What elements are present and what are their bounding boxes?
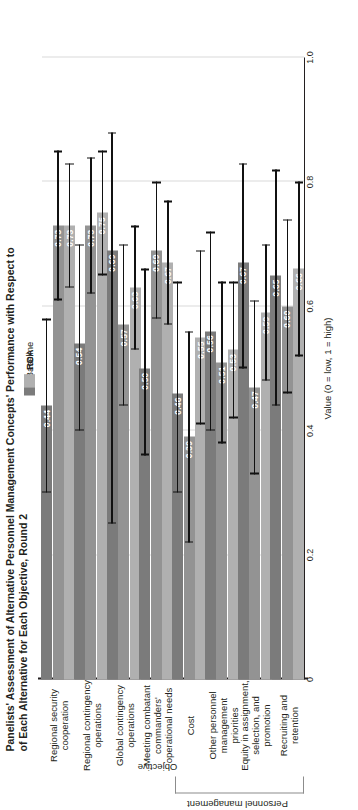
error-bar (265, 244, 267, 381)
error-bar-cap (283, 219, 291, 221)
bar-group: 0.690.570.63 (108, 57, 141, 679)
bar-group: 0.440.730.73 (42, 57, 75, 679)
category-label: Other personnel management priorities (210, 679, 237, 771)
error-bar-cap (65, 163, 73, 165)
error-bar-cap (65, 286, 73, 288)
error-bar-cap (131, 348, 139, 350)
error-bar (46, 318, 48, 492)
error-bar (156, 181, 158, 318)
error-bar-cap (196, 422, 204, 424)
error-bar-cap (218, 441, 226, 443)
value-axis-tick: 0.8 (305, 175, 315, 188)
category-label: Regional security cooperation (46, 679, 73, 771)
error-bar-cap (206, 231, 214, 233)
error-bar-cap (218, 281, 226, 283)
error-bar-cap (272, 404, 280, 406)
error-bar (275, 169, 277, 405)
error-bar-cap (141, 269, 149, 271)
error-bar (123, 244, 125, 406)
error-bar (254, 300, 256, 474)
error-bar-cap (42, 491, 50, 493)
error-bar (167, 200, 169, 324)
error-bar (102, 150, 104, 274)
error-bar-cap (239, 163, 247, 165)
error-bar-cap (54, 150, 62, 152)
error-bar (200, 250, 202, 424)
bar-group: 0.670.470.59 (239, 57, 272, 679)
error-bar (111, 132, 113, 524)
error-bar-cap (119, 244, 127, 246)
error-bar (69, 163, 71, 287)
category-label: Cost (177, 679, 204, 771)
error-bar-cap (98, 273, 106, 275)
chart-title-line1: Panelists' Assessment of Alternative Per… (4, 247, 16, 751)
value-axis-line (304, 57, 305, 679)
error-bar (177, 281, 179, 492)
error-bar (221, 281, 223, 443)
error-bar-cap (75, 244, 83, 246)
bracket-line (175, 776, 304, 793)
error-bar-cap (108, 522, 116, 524)
value-axis-tick: 1.0 (305, 51, 315, 64)
error-bar-cap (164, 200, 172, 202)
error-bar-cap (262, 379, 270, 381)
category-label: Regional contingency operations (79, 679, 106, 771)
error-bar-cap (75, 429, 83, 431)
bracket-label: Personnel management (132, 799, 342, 810)
error-bar-cap (173, 281, 181, 283)
value-axis-tick: 0.6 (305, 300, 315, 313)
category-label: Equity in assignment, selection, and pro… (243, 679, 270, 771)
error-bar-cap (98, 150, 106, 152)
error-bar (233, 281, 235, 418)
error-bar-cap (262, 244, 270, 246)
legend-swatch (24, 374, 35, 387)
error-bar-cap (141, 454, 149, 456)
error-bar (287, 219, 289, 393)
error-bar-cap (272, 169, 280, 171)
value-axis-tick: 0.4 (305, 424, 315, 437)
error-bar (144, 269, 146, 456)
error-bar-cap (173, 491, 181, 493)
bar-group: 0.540.730.75 (75, 57, 108, 679)
value-axis-title: Value (0 = low, 1 = high) (322, 57, 333, 679)
error-bar (298, 181, 300, 355)
error-bar-cap (87, 292, 95, 294)
category-label: Meeting combatant commanders' operationa… (144, 679, 171, 771)
bar-group: 0.650.600.66 (271, 57, 304, 679)
error-bar-cap (229, 416, 237, 418)
error-bar-cap (229, 281, 237, 283)
error-bar (90, 157, 92, 294)
value-axis-tick: 0.2 (305, 548, 315, 561)
error-bar (242, 163, 244, 368)
error-bar (210, 231, 212, 430)
error-bar-cap (196, 250, 204, 252)
category-label: Global contingency operations (112, 679, 139, 771)
legend-item-rca: RCA (24, 349, 35, 386)
error-bar-cap (152, 181, 160, 183)
category-axis-title: Objective (48, 762, 268, 773)
error-bar-cap (250, 300, 258, 302)
plot-area: 0.440.730.730.540.730.750.690.570.630.50… (42, 57, 304, 679)
error-bar-cap (152, 317, 160, 319)
error-bar-cap (185, 541, 193, 543)
error-bar-cap (54, 298, 62, 300)
bar-group: 0.560.510.53 (206, 57, 239, 679)
error-bar-cap (131, 225, 139, 227)
error-bar-cap (206, 429, 214, 431)
bar-group: 0.460.390.55 (173, 57, 206, 679)
error-bar-cap (42, 318, 50, 320)
error-bar-cap (185, 331, 193, 333)
legend-label: RCA (24, 349, 35, 369)
category-label: Recruiting and retention (275, 679, 302, 771)
error-bar-cap (239, 366, 247, 368)
error-bar-cap (119, 404, 127, 406)
error-bar-cap (164, 323, 172, 325)
value-axis-tick: 0 (305, 676, 315, 681)
error-bar (79, 244, 81, 431)
bar-group: 0.500.690.67 (140, 57, 173, 679)
error-bar-cap (295, 181, 303, 183)
error-bar-cap (295, 354, 303, 356)
error-bar-cap (108, 132, 116, 134)
